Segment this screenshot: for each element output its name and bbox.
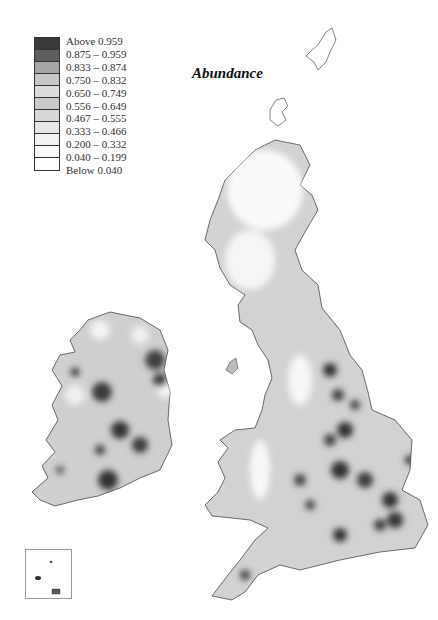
channel-islands-inset [25,549,72,599]
isle-of-man-outline [226,358,238,374]
shetland-outline [306,28,336,70]
orkney-outline [270,98,288,126]
abundance-map [0,0,438,620]
